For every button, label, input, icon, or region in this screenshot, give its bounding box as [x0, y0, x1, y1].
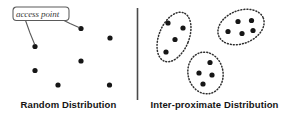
caption-inter-proximate-distribution: Inter-proximate Distribution: [143, 99, 286, 110]
random-distribution-points: [32, 26, 112, 88]
access-point-dot: [200, 81, 205, 86]
access-point-dot: [225, 29, 230, 34]
access-point-dot: [172, 37, 177, 42]
access-point-dot: [235, 19, 240, 24]
access-point-dot: [78, 26, 83, 31]
cluster-outline-group: [150, 3, 269, 97]
access-point-dot: [209, 72, 214, 77]
distribution-figure: access point Random Distribution Inter-p…: [0, 0, 286, 119]
access-point-dot: [107, 82, 112, 87]
access-point-dot: [250, 28, 255, 33]
access-point-dot: [78, 58, 83, 63]
callout-pointer-down: [25, 19, 35, 44]
callout-pointer-group: [25, 19, 79, 44]
cluster-top-right-points: [225, 18, 255, 36]
access-point-dot: [165, 20, 170, 25]
caption-random-distribution: Random Distribution: [0, 99, 137, 110]
access-point-dot: [107, 35, 112, 40]
access-point-dot: [249, 18, 254, 23]
cluster-top-right-outline: [213, 3, 270, 52]
access-point-dot: [207, 60, 212, 65]
access-point-dot: [32, 68, 37, 73]
cluster-left-outline: [150, 7, 197, 66]
cluster-bottom-points: [196, 60, 214, 87]
access-point-dot: [196, 70, 201, 75]
access-point-label: access point: [16, 9, 68, 20]
access-point-dot: [163, 49, 168, 54]
access-point-dot: [239, 31, 244, 36]
access-point-dot: [32, 44, 37, 49]
access-point-dot: [180, 25, 185, 30]
cluster-bottom-outline: [184, 49, 227, 97]
cluster-left-points: [163, 20, 185, 54]
access-point-dot: [55, 82, 60, 87]
